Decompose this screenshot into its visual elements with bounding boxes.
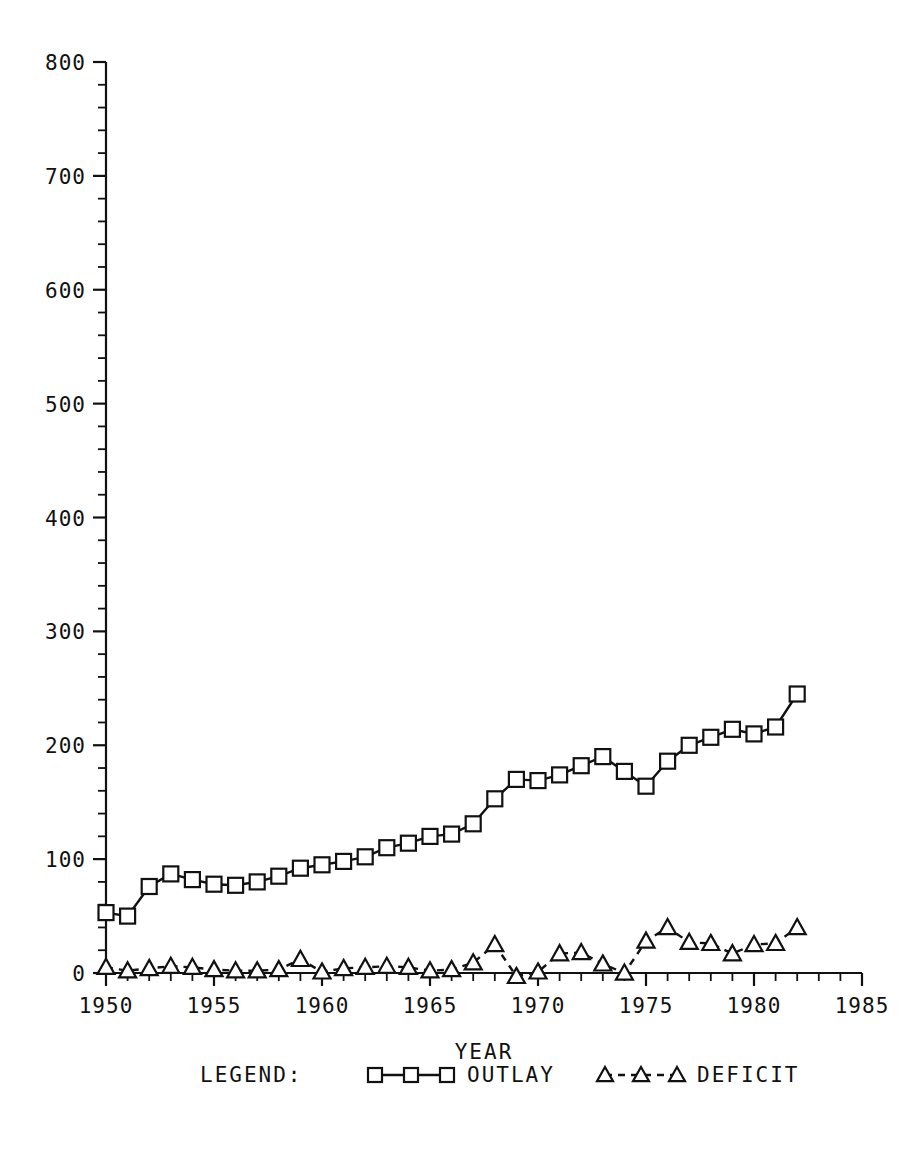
- data-point-outlay: [747, 726, 762, 741]
- y-tick-label: 800: [45, 51, 86, 75]
- chart-page: 0100200300400500600700800 19501955196019…: [0, 0, 922, 1158]
- data-point-outlay: [574, 758, 589, 773]
- data-point-outlay: [768, 720, 783, 735]
- x-tick-label: 1980: [727, 994, 782, 1018]
- data-point-outlay: [552, 767, 567, 782]
- series-layer: [98, 687, 806, 984]
- data-point-outlay: [99, 905, 114, 920]
- data-point-deficit: [162, 958, 179, 973]
- data-point-outlay: [790, 687, 805, 702]
- data-point-outlay: [315, 857, 330, 872]
- legend-entry-outlay: OUTLAY: [467, 1063, 555, 1087]
- data-point-deficit: [292, 951, 309, 966]
- data-point-outlay: [487, 791, 502, 806]
- x-tick-label: 1950: [79, 994, 134, 1018]
- y-tick-label: 400: [45, 507, 86, 531]
- legend-label: LEGEND:: [200, 1063, 303, 1087]
- data-point-deficit: [638, 933, 655, 948]
- data-point-outlay: [725, 722, 740, 737]
- legend-square-marker: [404, 1068, 418, 1082]
- data-point-deficit: [357, 959, 374, 974]
- y-tick-label: 300: [45, 620, 86, 644]
- data-point-outlay: [703, 730, 718, 745]
- x-tick-label: 1985: [835, 994, 890, 1018]
- data-point-deficit: [594, 955, 611, 970]
- y-tick-label: 600: [45, 279, 86, 303]
- data-point-deficit: [724, 945, 741, 960]
- data-point-deficit: [98, 959, 115, 974]
- data-point-deficit: [141, 960, 158, 975]
- data-point-deficit: [573, 944, 590, 959]
- y-tick-label: 500: [45, 393, 86, 417]
- data-point-outlay: [163, 866, 178, 881]
- data-point-outlay: [336, 854, 351, 869]
- data-point-deficit: [270, 961, 287, 976]
- data-point-outlay: [595, 749, 610, 764]
- data-point-outlay: [228, 878, 243, 893]
- x-tick-label: 1955: [187, 994, 242, 1018]
- y-tick-label: 0: [72, 962, 86, 986]
- data-point-deficit: [378, 958, 395, 973]
- x-tick-label: 1960: [295, 994, 350, 1018]
- x-tick-label: 1970: [511, 994, 566, 1018]
- data-point-outlay: [185, 872, 200, 887]
- legend-square-marker: [440, 1068, 454, 1082]
- y-tick-label: 700: [45, 165, 86, 189]
- data-point-deficit: [486, 936, 503, 951]
- axis-labels: YEAR: [455, 1040, 514, 1064]
- data-point-outlay: [142, 879, 157, 894]
- data-point-deficit: [767, 935, 784, 950]
- data-point-deficit: [443, 961, 460, 976]
- data-point-outlay: [660, 754, 675, 769]
- data-point-outlay: [271, 869, 286, 884]
- data-point-outlay: [531, 773, 546, 788]
- line-chart: 0100200300400500600700800 19501955196019…: [0, 0, 922, 1158]
- legend-square-marker: [368, 1068, 382, 1082]
- data-point-deficit: [206, 961, 223, 976]
- data-point-outlay: [120, 909, 135, 924]
- data-point-outlay: [207, 877, 222, 892]
- data-point-outlay: [293, 861, 308, 876]
- data-point-deficit: [659, 919, 676, 934]
- data-point-outlay: [639, 779, 654, 794]
- chart-legend: LEGEND:OUTLAYDEFICIT: [200, 1063, 800, 1087]
- legend-entry-deficit: DEFICIT: [697, 1063, 800, 1087]
- data-point-outlay: [444, 827, 459, 842]
- data-point-outlay: [509, 772, 524, 787]
- y-tick-label: 100: [45, 848, 86, 872]
- data-point-outlay: [401, 836, 416, 851]
- data-point-outlay: [466, 816, 481, 831]
- x-axis: 19501955196019651970197519801985: [79, 973, 890, 1018]
- data-point-outlay: [379, 840, 394, 855]
- data-point-outlay: [617, 764, 632, 779]
- data-point-outlay: [682, 738, 697, 753]
- x-axis-title: YEAR: [455, 1040, 514, 1064]
- data-point-outlay: [250, 874, 265, 889]
- data-point-outlay: [423, 829, 438, 844]
- y-tick-label: 200: [45, 734, 86, 758]
- data-point-deficit: [681, 934, 698, 949]
- y-axis: 0100200300400500600700800: [45, 51, 106, 986]
- x-tick-label: 1965: [403, 994, 458, 1018]
- data-point-deficit: [314, 963, 331, 978]
- data-point-deficit: [746, 936, 763, 951]
- data-point-outlay: [358, 849, 373, 864]
- x-tick-label: 1975: [619, 994, 674, 1018]
- data-point-deficit: [789, 919, 806, 934]
